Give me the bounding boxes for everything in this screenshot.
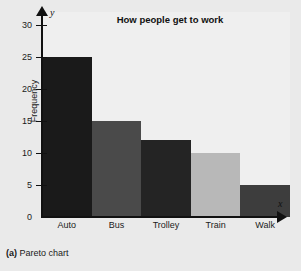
x-tick-label-trolley: Trolley (141, 220, 191, 230)
figure-caption: (a) Pareto chart (6, 248, 69, 258)
figure-caption-text: Pareto chart (17, 248, 69, 258)
x-tick-label-train: Train (191, 220, 241, 230)
x-axis-ticks: AutoBusTrolleyTrainWalk (0, 0, 301, 271)
x-tick-label-bus: Bus (92, 220, 142, 230)
x-tick-label-walk: Walk (240, 220, 290, 230)
x-tick-label-auto: Auto (42, 220, 92, 230)
figure-caption-label: (a) (6, 248, 17, 258)
pareto-chart-figure: How people get to work y x Frequency 051… (0, 0, 301, 271)
